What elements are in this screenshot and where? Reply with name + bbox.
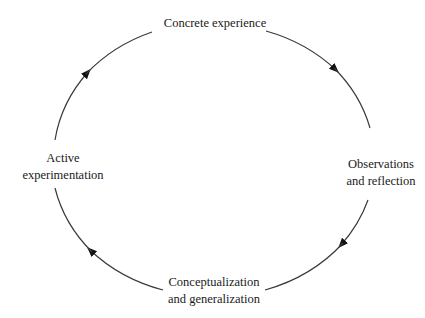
- arc-bottom-to-left: [90, 250, 163, 290]
- node-label-line: Conceptualization: [168, 274, 260, 291]
- node-label-line: experimentation: [22, 167, 103, 184]
- arc-left-to-top-tail: [86, 32, 152, 74]
- arc-right-to-bottom-tail: [265, 243, 343, 290]
- node-label-line: Concrete experience: [164, 15, 266, 32]
- node-observations-reflection: Observations and reflection: [346, 156, 415, 190]
- node-label-line: Active: [22, 150, 103, 167]
- node-label-line: Observations: [346, 156, 415, 173]
- arc-top-to-right-tail: [334, 68, 370, 128]
- arc-top-to-right: [266, 31, 336, 70]
- node-active-experimentation: Active experimentation: [22, 150, 103, 184]
- arc-bottom-to-left-tail: [55, 188, 92, 252]
- arc-left-to-top: [55, 72, 88, 140]
- node-concrete-experience: Concrete experience: [164, 15, 266, 32]
- node-label-line: and generalization: [168, 291, 260, 308]
- arc-right-to-bottom: [341, 200, 368, 245]
- node-label-line: and reflection: [346, 173, 415, 190]
- node-conceptualization-generalization: Conceptualization and generalization: [168, 274, 260, 308]
